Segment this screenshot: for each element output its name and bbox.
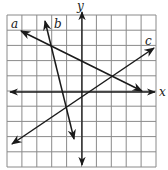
line-c-label: c — [145, 34, 152, 48]
line-b-label: b — [54, 17, 62, 31]
x-axis-label: x — [159, 85, 166, 99]
coordinate-plane: x y a b c — [0, 0, 168, 170]
line-a-label: a — [11, 17, 18, 31]
y-axis-label: y — [76, 0, 84, 13]
